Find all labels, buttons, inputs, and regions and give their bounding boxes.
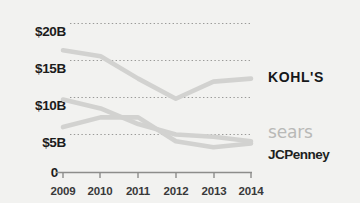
- x-axis-ticks: [63, 173, 251, 179]
- x-axis-tick-2012: 2012: [157, 186, 195, 198]
- series-line-jcpenney: [63, 117, 251, 147]
- legend-item-sears: sears: [268, 124, 313, 141]
- x-axis-tick-2014: 2014: [232, 186, 270, 198]
- legend-item-jcpenney: JCPenney: [268, 148, 329, 162]
- x-axis-tick-2013: 2013: [195, 186, 233, 198]
- x-axis-tick-2010: 2010: [81, 186, 119, 198]
- legend-item-kohls: KOHL'S: [268, 70, 324, 84]
- x-axis-tick-2009: 2009: [44, 186, 82, 198]
- chart-plot-area: [0, 0, 360, 203]
- series-lines: [63, 50, 251, 147]
- series-line-kohls: [63, 50, 251, 98]
- chart-container: $20B $15B $10B $5B 0 2009: [0, 0, 360, 203]
- x-axis-tick-2011: 2011: [119, 186, 157, 198]
